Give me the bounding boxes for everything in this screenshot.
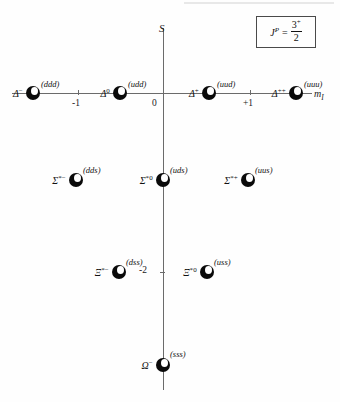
- particle-sphere-icon: [113, 86, 127, 100]
- horizontal-axis-label: mI: [314, 88, 324, 102]
- particle-charge-superscript: *0: [190, 266, 197, 274]
- particle-symbol: Ξ*−: [95, 266, 109, 278]
- spin-parity-numerator: 3+: [291, 19, 302, 32]
- particle-quark-content: (udd): [128, 79, 146, 89]
- particle-symbol: Ξ*0: [183, 266, 197, 278]
- particle-quark-content: (uud): [217, 79, 235, 89]
- particle-sphere-icon: [26, 86, 40, 100]
- tick-x-plus1: [250, 90, 251, 95]
- tick-label-x-plus1: +1: [243, 98, 253, 108]
- particle-quark-content: (uds): [170, 165, 187, 175]
- particle-symbol: Δ+: [189, 87, 199, 99]
- particle-symbol: Σ*−: [52, 174, 66, 186]
- particle-charge-superscript: ++: [278, 87, 286, 95]
- spin-parity-legend-content: JP = 3+ 2: [257, 17, 315, 47]
- baryon-decuplet-figure: S mI -1 0 +1 -2 JP = 3+ 2 Δ−(ddd)Δ0(udd)…: [0, 0, 340, 402]
- particle-charge-superscript: −: [149, 359, 153, 367]
- particle-sphere-icon: [69, 173, 83, 187]
- particle-symbol: Σ*+: [224, 174, 238, 186]
- particle-charge-superscript: 0: [106, 87, 110, 95]
- particle-symbol: Ω−: [142, 359, 153, 371]
- particle-charge-superscript: −: [19, 87, 23, 95]
- particle-charge-superscript: +: [195, 87, 199, 95]
- particle-sphere-icon: [200, 265, 214, 279]
- spin-parity-symbol-superscript: P: [275, 26, 279, 34]
- particle-charge-superscript: *−: [58, 174, 66, 182]
- horizontal-axis: [12, 93, 312, 94]
- spin-parity-equals: =: [282, 27, 288, 38]
- vertical-axis: [163, 28, 164, 390]
- particle-quark-content: (sss): [170, 349, 186, 359]
- vertical-axis-label: S: [159, 22, 165, 34]
- scan-artifact: [184, 2, 334, 4]
- particle-symbol: Δ++: [272, 87, 286, 99]
- particle-quark-content: (ddd): [41, 79, 59, 89]
- particle-symbol: Δ−: [13, 87, 23, 99]
- particle-sphere-icon: [289, 86, 303, 100]
- spin-parity-denominator: 2: [291, 32, 302, 43]
- particle-sphere-icon: [156, 173, 170, 187]
- tick-label-x-minus1: -1: [72, 98, 80, 108]
- spin-parity-legend-box: JP = 3+ 2: [256, 16, 316, 48]
- particle-sphere-icon: [202, 86, 216, 100]
- particle-charge-superscript: *+: [230, 174, 238, 182]
- horizontal-axis-label-subscript: I: [321, 93, 324, 102]
- tick-y-minus2: [160, 272, 165, 273]
- particle-quark-content: (dss): [126, 257, 143, 267]
- particle-charge-superscript: *0: [146, 174, 153, 182]
- spin-parity-symbol: JP: [270, 26, 279, 38]
- particle-charge-superscript: *−: [101, 266, 109, 274]
- particle-quark-content: (uss): [214, 257, 231, 267]
- particle-sphere-icon: [112, 265, 126, 279]
- tick-label-x-zero: 0: [152, 98, 157, 108]
- tick-x-minus1: [78, 90, 79, 95]
- particle-quark-content: (dds): [83, 165, 100, 175]
- particle-quark-content: (uuu): [304, 79, 322, 89]
- particle-symbol: Δ0: [100, 87, 110, 99]
- particle-symbol: Σ*0: [140, 174, 153, 186]
- particle-quark-content: (uus): [255, 165, 272, 175]
- particle-sphere-icon: [156, 358, 170, 372]
- spin-parity-numerator-superscript: +: [297, 18, 301, 26]
- particle-sphere-icon: [241, 173, 255, 187]
- spin-parity-fraction: 3+ 2: [291, 19, 302, 42]
